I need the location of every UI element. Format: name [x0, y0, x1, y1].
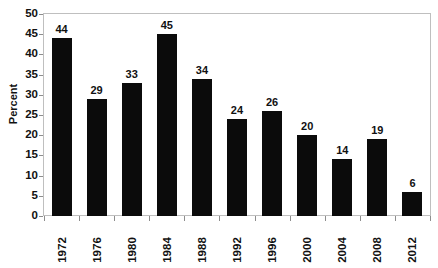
y-axis-tick-label: 0 — [16, 210, 38, 222]
y-axis-tick-mark — [39, 216, 43, 217]
bar — [297, 135, 317, 216]
bar-value-label: 14 — [336, 145, 348, 156]
bar-chart: Percent 50454035302520151050 44293345342… — [0, 0, 438, 268]
bar — [227, 119, 247, 216]
bar-group: 6 — [395, 14, 430, 216]
y-axis-tick-label: 35 — [16, 69, 38, 81]
bar-group: 45 — [149, 14, 184, 216]
bar-group: 19 — [360, 14, 395, 216]
x-axis-tick-mark — [430, 216, 431, 221]
bar — [157, 34, 177, 216]
bar-value-label: 6 — [409, 178, 415, 189]
x-axis-tick-mark — [149, 216, 150, 221]
y-axis-tick-labels: 50454035302520151050 — [12, 0, 38, 268]
x-axis-tick-label: 1980 — [126, 228, 138, 268]
bar-value-label: 33 — [126, 69, 138, 80]
bar-group: 20 — [290, 14, 325, 216]
x-axis-tick-mark — [255, 216, 256, 221]
x-axis-tick-mark — [325, 216, 326, 221]
x-axis-tick-label: 2008 — [371, 228, 383, 268]
x-axis-tick-label: 1992 — [231, 228, 243, 268]
bar-value-label: 26 — [266, 97, 278, 108]
bar-value-label: 34 — [196, 65, 208, 76]
plot-area: 442933453424262014196 — [44, 14, 430, 216]
bar — [262, 111, 282, 216]
x-axis-tick-labels: 1972197619801984198819921996200020042008… — [44, 222, 430, 268]
bar-value-label: 29 — [90, 85, 102, 96]
bar-group: 44 — [44, 14, 79, 216]
x-axis-tick-mark — [395, 216, 396, 221]
x-axis-tick-mark — [290, 216, 291, 221]
bar-group: 29 — [79, 14, 114, 216]
y-axis-tick-label: 50 — [16, 8, 38, 20]
x-axis-tick-label: 2000 — [301, 228, 313, 268]
y-axis-tick-label: 40 — [16, 49, 38, 61]
bar — [402, 192, 422, 216]
bar-value-label: 45 — [161, 20, 173, 31]
y-axis-tick-label: 20 — [16, 129, 38, 141]
x-axis-tick-mark — [44, 216, 45, 221]
bar-group: 26 — [255, 14, 290, 216]
y-axis-tick-label: 30 — [16, 89, 38, 101]
bar-value-label: 19 — [371, 125, 383, 136]
y-axis-tick-label: 15 — [16, 150, 38, 162]
bar-value-label: 20 — [301, 121, 313, 132]
bar — [122, 83, 142, 216]
bar-group: 34 — [184, 14, 219, 216]
bar-group: 14 — [325, 14, 360, 216]
x-axis-tick-label: 1972 — [56, 228, 68, 268]
y-axis-tick-label: 45 — [16, 28, 38, 40]
x-axis-tick-label: 1996 — [266, 228, 278, 268]
bar-value-label: 24 — [231, 105, 243, 116]
bar — [367, 139, 387, 216]
bar — [192, 79, 212, 216]
x-axis-tick-label: 2004 — [336, 228, 348, 268]
x-axis-tick-mark — [114, 216, 115, 221]
x-axis-tick-label: 1984 — [161, 228, 173, 268]
bar — [52, 38, 72, 216]
y-axis-tick-label: 10 — [16, 170, 38, 182]
x-axis-tick-label: 1976 — [91, 228, 103, 268]
bar-group: 24 — [219, 14, 254, 216]
x-axis-tick-mark — [184, 216, 185, 221]
bar-group: 33 — [114, 14, 149, 216]
x-axis-tick-mark — [79, 216, 80, 221]
y-axis-tick-label: 25 — [16, 109, 38, 121]
bar — [87, 99, 107, 216]
x-axis-tick-mark — [360, 216, 361, 221]
bar-value-label: 44 — [55, 24, 67, 35]
x-axis-tick-label: 1988 — [196, 228, 208, 268]
x-axis-tick-label: 2012 — [406, 228, 418, 268]
bar — [332, 159, 352, 216]
x-axis-tick-mark — [219, 216, 220, 221]
y-axis-tick-label: 5 — [16, 190, 38, 202]
